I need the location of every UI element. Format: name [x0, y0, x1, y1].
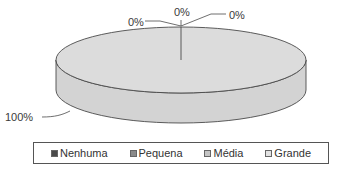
legend-label: Grande [274, 147, 311, 159]
legend-swatch-pequena [130, 150, 137, 157]
legend-label: Nenhuma [60, 147, 108, 159]
leader-line-grande [42, 111, 70, 117]
data-label-pequena: 0% [174, 7, 190, 18]
legend-label: Pequena [139, 147, 183, 159]
pie-chart-3d [0, 0, 339, 140]
leader-line-nenhuma [145, 21, 181, 26]
data-label-grande: 100% [5, 112, 33, 123]
legend-item-grande: Grande [265, 147, 311, 159]
legend-item-pequena: Pequena [130, 147, 183, 159]
legend-item-nenhuma: Nenhuma [51, 147, 108, 159]
chart-legend: Nenhuma Pequena Média Grande [33, 142, 329, 164]
data-label-nenhuma: 0% [128, 17, 144, 28]
data-label-media: 0% [229, 10, 245, 21]
legend-swatch-grande [265, 150, 272, 157]
legend-item-media: Média [204, 147, 243, 159]
legend-swatch-nenhuma [51, 150, 58, 157]
legend-label: Média [213, 147, 243, 159]
legend-swatch-media [204, 150, 211, 157]
